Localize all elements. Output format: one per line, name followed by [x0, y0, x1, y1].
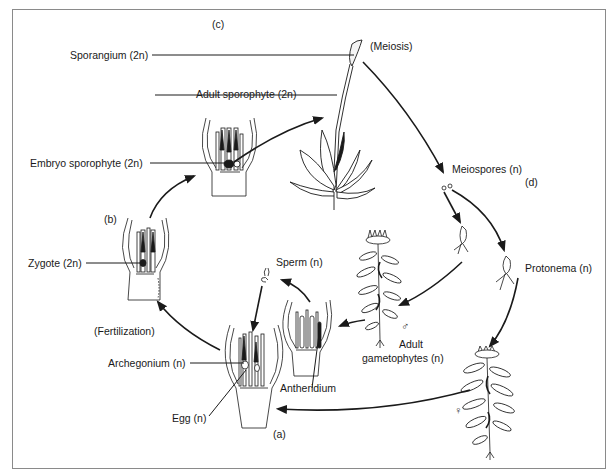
arrow-antheridium-to-sperm — [282, 280, 310, 302]
stage-a-label: (a) — [273, 428, 286, 440]
female-gametophyte-illustration — [460, 346, 516, 460]
meiospores-label: Meiospores (n) — [452, 163, 522, 175]
embryo-sporophyte-label: Embryo sporophyte (2n) — [30, 157, 143, 169]
male-gametophyte-illustration — [356, 230, 403, 348]
egg-leader — [209, 370, 246, 416]
archegonium-label: Archegonium (n) — [108, 357, 186, 369]
stage-d-label: (d) — [525, 176, 538, 188]
protonema-illustration — [454, 226, 514, 290]
adult-gametophytes-label-line1: Adult — [399, 338, 423, 350]
sporangium-label: Sporangium (2n) — [70, 49, 148, 61]
stage-b-label: (b) — [104, 213, 117, 225]
stage-c-label: (c) — [212, 18, 224, 30]
protonema-label: Protonema (n) — [525, 262, 592, 274]
meiospores-illustration — [442, 184, 452, 190]
adult-gametophytes-label-line2: gametophytes (n) — [362, 352, 444, 364]
arrow-meiospores-to-protonema-male — [444, 192, 460, 222]
sperm-label: Sperm (n) — [276, 256, 323, 268]
arrow-male-gametophyte-to-antheridium — [340, 320, 365, 326]
male-symbol: ♂ — [401, 320, 409, 332]
adult-sporophyte-label: Adult sporophyte (2n) — [196, 88, 296, 100]
embryo-sporophyte-illustration — [202, 118, 257, 196]
arrow-sporangium-to-meiospores — [363, 62, 443, 172]
zygote-label: Zygote (2n) — [28, 257, 82, 269]
fertilization-label: (Fertilization) — [94, 325, 155, 337]
zygote-illustration — [122, 218, 168, 300]
moss-life-cycle-diagram — [0, 0, 616, 476]
arrow-protonema-to-female-gametophyte — [490, 278, 518, 346]
archegonium-illustration — [225, 325, 283, 428]
sperm-illustration — [262, 268, 270, 282]
egg-label: Egg (n) — [172, 412, 206, 424]
arrow-fertilization-to-zygote — [158, 302, 220, 350]
antheridium-label: Antheridium — [280, 382, 336, 394]
antheridium-leader — [312, 334, 319, 388]
meiosis-label: (Meiosis) — [370, 40, 413, 52]
arrow-protonema-to-male-gametophyte — [400, 262, 462, 305]
arrow-sperm-to-archegonium — [253, 286, 262, 330]
antheridium-illustration — [283, 300, 332, 376]
arrow-zygote-to-embryo — [150, 176, 194, 218]
female-symbol: ♀ — [454, 404, 462, 416]
